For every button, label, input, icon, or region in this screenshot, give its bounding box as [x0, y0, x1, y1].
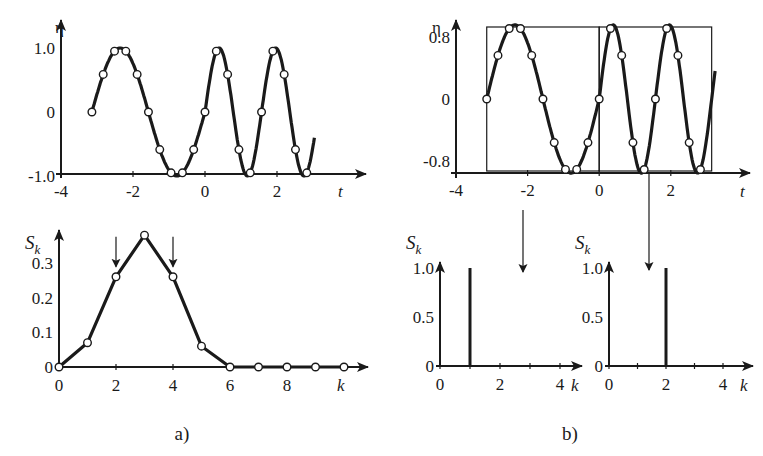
spectrum-point — [198, 342, 206, 350]
x-tick-label: 0 — [605, 375, 614, 394]
sample-point — [303, 169, 311, 177]
panel-a-signal: η t -4-2021.00-1.0 — [28, 18, 366, 201]
sample-point — [595, 95, 603, 103]
spectrum-point — [112, 273, 120, 281]
sample-point — [190, 146, 198, 154]
sample-point — [652, 95, 660, 103]
y-tick-label: 0 — [45, 358, 54, 377]
sample-point — [224, 71, 232, 79]
x-axis-label: k — [740, 376, 748, 395]
sample-point — [674, 52, 682, 60]
sample-point — [111, 47, 119, 55]
x-tick-label: 8 — [283, 376, 292, 395]
x-tick-label: 2 — [273, 182, 282, 201]
sample-point — [663, 25, 671, 33]
x-tick-label: 2 — [496, 375, 505, 394]
x-tick-label: 0 — [436, 375, 445, 394]
y-tick-label: 1.0 — [582, 259, 603, 278]
sample-point — [573, 166, 581, 174]
sample-point — [539, 95, 547, 103]
panel-b-spectrum-right: Sk k 02400.51.0 — [575, 232, 753, 395]
y-axis-label: Sk — [406, 232, 422, 257]
x-axis-label: t — [338, 182, 344, 201]
panel-b-signal: η t -4-2020.80-0.8 — [423, 18, 750, 272]
sample-point — [697, 166, 705, 174]
sample-point — [213, 47, 221, 55]
sample-point — [246, 169, 254, 177]
spectrum-point — [312, 363, 320, 371]
x-tick-label: 2 — [112, 376, 121, 395]
sample-point — [258, 108, 266, 116]
sample-point — [235, 146, 243, 154]
y-tick-label: 0.1 — [32, 323, 53, 342]
sample-point — [133, 71, 141, 79]
sample-point — [269, 47, 277, 55]
spectrum-point — [226, 363, 234, 371]
sample-point — [156, 146, 164, 154]
x-tick-label: 0 — [55, 376, 64, 395]
sample-point — [145, 108, 153, 116]
sample-point — [550, 139, 558, 147]
sample-point — [179, 169, 187, 177]
y-tick-label: 0.5 — [582, 308, 603, 327]
sample-point — [685, 139, 693, 147]
y-tick-label: 0.3 — [32, 254, 53, 273]
spectrum-point — [169, 273, 177, 281]
sample-point — [122, 47, 130, 55]
x-tick-label: 2 — [662, 375, 671, 394]
sample-point — [167, 169, 175, 177]
y-tick-label: -1.0 — [28, 167, 55, 186]
x-tick-label: -4 — [54, 182, 69, 201]
caption-a: a) — [175, 423, 190, 445]
sample-point — [99, 71, 107, 79]
sample-point — [517, 25, 525, 33]
x-tick-label: -2 — [126, 182, 140, 201]
panel-b-spectrum-left: Sk k 02400.51.0 — [406, 232, 582, 395]
y-tick-label: 0.2 — [32, 289, 53, 308]
sample-point — [607, 25, 615, 33]
x-axis-label: k — [337, 376, 345, 395]
x-axis-label: t — [740, 182, 746, 201]
sample-point — [88, 108, 96, 116]
caption-b: b) — [562, 423, 578, 445]
spectrum-point — [84, 339, 92, 347]
y-tick-label: 1.0 — [413, 259, 434, 278]
x-tick-label: 0 — [595, 181, 604, 200]
spectrum-point — [141, 231, 149, 239]
sample-point — [629, 139, 637, 147]
y-tick-label: 0 — [426, 357, 435, 376]
sample-point — [494, 52, 502, 60]
spectrum-point — [255, 363, 263, 371]
sample-point — [584, 139, 592, 147]
y-tick-label: 1.0 — [34, 39, 55, 58]
panel-a-spectrum: Sk k 0246800.10.20.3 — [25, 230, 368, 395]
y-tick-label: -0.8 — [423, 152, 450, 171]
sample-point — [505, 25, 513, 33]
x-tick-label: 2 — [667, 181, 676, 200]
x-tick-label: 6 — [226, 376, 235, 395]
x-axis-label: k — [571, 376, 579, 395]
sample-point — [528, 52, 536, 60]
y-tick-label: 0 — [47, 103, 56, 122]
x-tick-label: 4 — [556, 375, 565, 394]
spectrum-point — [340, 363, 348, 371]
y-axis-label: Sk — [575, 232, 591, 257]
sample-point — [483, 95, 491, 103]
x-tick-label: 0 — [201, 182, 210, 201]
sample-point — [292, 146, 300, 154]
x-tick-label: 4 — [719, 375, 728, 394]
sample-point — [280, 71, 288, 79]
x-tick-label: -4 — [449, 181, 464, 200]
spectrum-point — [55, 363, 63, 371]
sample-point — [201, 108, 209, 116]
sample-point — [562, 166, 570, 174]
sample-point — [618, 52, 626, 60]
y-tick-label: 0 — [595, 357, 604, 376]
y-axis-label: η — [55, 18, 64, 37]
x-tick-label: -2 — [521, 181, 535, 200]
figure: η t -4-2021.00-1.0 Sk k 0246800.10.20.3 … — [0, 0, 763, 456]
sample-point — [640, 166, 648, 174]
spectrum-point — [283, 363, 291, 371]
x-tick-label: 4 — [169, 376, 178, 395]
y-tick-label: 0.5 — [413, 308, 434, 327]
